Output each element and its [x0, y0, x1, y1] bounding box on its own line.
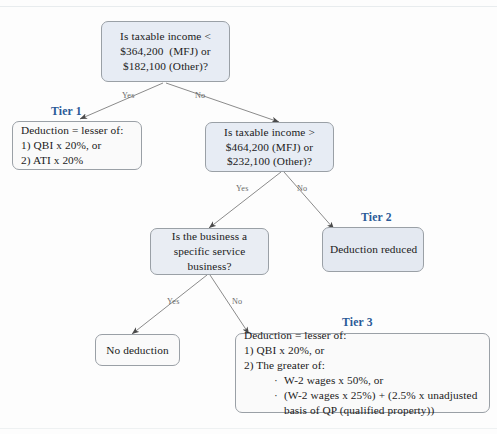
decision-q2-line3: $232,100 (Other)?	[213, 154, 326, 169]
tier3-bullet-1: · W-2 wages x 50%, or	[244, 373, 481, 388]
tier3-line1: Deduction = lesser of:	[244, 328, 481, 343]
decision-q2-line1: Is taxable income >	[213, 125, 326, 140]
tier2-line1: Deduction reduced	[330, 242, 417, 257]
decision-q3-line3: business?	[158, 259, 261, 274]
decision-q1-line1: Is taxable income <	[109, 29, 222, 44]
decision-taxable-income-upper-threshold[interactable]: Is taxable income > $464,200 (MFJ) or $2…	[205, 122, 334, 172]
tier3-bullet-1-text: W-2 wages x 50%, or	[284, 373, 481, 388]
flowchart-canvas: Is taxable income < $364,200 (MFJ) or $1…	[0, 0, 497, 434]
branch-label-q2-no: No	[297, 184, 307, 193]
decision-q3-line1: Is the business a	[158, 229, 261, 244]
outcome-tier-3-deduction[interactable]: Deduction = lesser of: 1) QBI x 20%, or …	[235, 333, 490, 413]
branch-label-q2-yes: Yes	[236, 184, 249, 193]
tier-1-label: Tier 1	[51, 105, 82, 118]
outcome-no-deduction[interactable]: No deduction	[95, 334, 180, 366]
bullet-icon: ·	[274, 388, 284, 403]
branch-label-q1-no: No	[195, 91, 205, 100]
decision-taxable-income-lower-threshold[interactable]: Is taxable income < $364,200 (MFJ) or $1…	[101, 21, 230, 82]
tier3-bullet-2-continuation: basis of QP (qualified property))	[244, 403, 481, 418]
tier-3-label: Tier 3	[342, 316, 373, 329]
tier1-line2: 1) QBI x 20%, or	[21, 138, 133, 153]
tier3-line2: 1) QBI x 20%, or	[244, 343, 481, 358]
decision-q1-line2: $364,200 (MFJ) or	[109, 44, 222, 59]
tier3-bullet-2-text: (W-2 wages x 25%) + (2.5% x unadjusted	[284, 388, 481, 403]
branch-label-q3-yes: Yes	[167, 297, 180, 306]
outcome-tier-2-deduction-reduced[interactable]: Deduction reduced	[322, 227, 424, 272]
tier3-bullet-2: · (W-2 wages x 25%) + (2.5% x unadjusted	[244, 388, 481, 403]
tier3-line3: 2) The greater of:	[244, 358, 481, 373]
decision-q1-line3: $182,100 (Other)?	[109, 59, 222, 74]
decision-specific-service-business[interactable]: Is the business a specific service busin…	[150, 228, 269, 275]
outcome-tier-1-deduction[interactable]: Deduction = lesser of: 1) QBI x 20%, or …	[12, 121, 142, 170]
tier-2-label: Tier 2	[361, 211, 392, 224]
branch-label-q1-yes: Yes	[122, 91, 135, 100]
nodeduction-line1: No deduction	[103, 343, 172, 358]
bullet-icon: ·	[274, 373, 284, 388]
tier1-line1: Deduction = lesser of:	[21, 123, 133, 138]
tier1-line3: 2) ATI x 20%	[21, 153, 133, 168]
branch-label-q3-no: No	[232, 297, 242, 306]
decision-q3-line2: specific service	[158, 244, 261, 259]
decision-q2-line2: $464,200 (MFJ) or	[213, 140, 326, 155]
